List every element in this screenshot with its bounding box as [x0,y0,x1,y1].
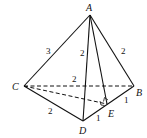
vertex-label-C: C [12,81,19,92]
vertex-label-A: A [85,2,93,13]
edge-label-AD: 2 [80,48,85,58]
vertex-label-D: D [78,125,87,136]
edge-label-DE: 1 [96,113,101,123]
edge-label-AC: 3 [46,46,51,56]
edge-label-CB: 2 [72,74,77,84]
edge-AD [83,15,90,121]
vertex-label-B: B [136,87,142,98]
edge-CD [24,86,83,121]
edge-label-EB: 1 [124,95,129,105]
edge-label-CD: 2 [48,106,53,116]
edge-CE-hidden [24,86,107,104]
edge-label-AB: 2 [121,46,126,56]
vertex-label-E: E [107,108,114,119]
pyramid-diagram: A B C D E 3 2 2 2 2 1 1 [0,0,147,138]
